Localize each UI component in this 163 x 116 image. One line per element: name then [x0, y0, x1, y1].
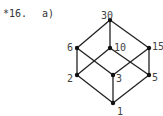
- node-label-15: 15: [152, 41, 163, 52]
- node-1: [111, 101, 115, 105]
- node-label-5: 5: [152, 72, 158, 83]
- node-label-2: 2: [67, 73, 73, 84]
- node-label-10: 10: [114, 42, 126, 53]
- node-10: [108, 46, 112, 50]
- node-label-30: 30: [101, 10, 113, 21]
- node-5: [147, 73, 151, 77]
- node-label-6: 6: [67, 42, 73, 53]
- node-3: [111, 73, 115, 77]
- diagram-edges: [77, 20, 149, 103]
- node-label-1: 1: [117, 106, 123, 116]
- node-6: [75, 46, 79, 50]
- node-15: [147, 46, 151, 50]
- edge-30-6: [77, 20, 110, 48]
- edge-2-1: [77, 75, 113, 103]
- node-label-3: 3: [116, 73, 122, 84]
- hasse-diagram: 30610152351: [0, 0, 163, 116]
- node-2: [75, 73, 79, 77]
